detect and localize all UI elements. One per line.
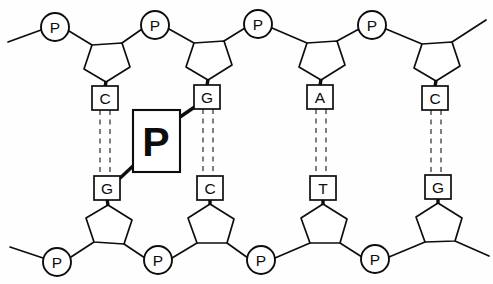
- top-glycosidic-bonds: [105, 79, 436, 88]
- phosphate-node[interactable]: P: [43, 248, 71, 276]
- backbone-bond: [71, 242, 94, 257]
- phosphate-node[interactable]: P: [41, 13, 69, 41]
- phosphate-label: P: [153, 252, 163, 269]
- base-label: C: [204, 180, 215, 197]
- base-label: G: [101, 180, 113, 197]
- nucleobase-node[interactable]: C: [422, 86, 448, 110]
- backbone-bond: [275, 243, 310, 258]
- backbone-bond: [227, 243, 248, 258]
- deoxyribose-sugar: [299, 41, 345, 80]
- dna-diagram-canvas: P P P P P P: [0, 0, 493, 284]
- backbone-bond: [122, 29, 142, 43]
- backbone-bond: [337, 29, 359, 41]
- top-sugar-group: [84, 41, 460, 82]
- hydrogen-bonds-pair-4: [431, 110, 441, 175]
- phosphate-label: P: [253, 16, 263, 33]
- backbone-bond: [69, 31, 92, 45]
- bottom-sugar-group: [86, 203, 462, 244]
- dna-backbone-svg: P P P P P P: [0, 0, 493, 284]
- nucleobase-node[interactable]: G: [425, 175, 451, 199]
- base-label: T: [318, 180, 328, 197]
- deoxyribose-sugar: [301, 204, 347, 243]
- base-label: C: [429, 90, 440, 107]
- base-label: A: [315, 89, 326, 106]
- phosphate-node[interactable]: P: [144, 246, 172, 274]
- backbone-bond: [224, 28, 245, 41]
- deoxyribose-sugar: [416, 203, 462, 242]
- top-base-group: C G A C: [92, 85, 448, 110]
- backbone-bond: [340, 243, 362, 257]
- phosphate-callout[interactable]: P: [133, 110, 180, 172]
- top-terminal-bond-right: [452, 20, 486, 42]
- backbone-bond: [272, 28, 307, 43]
- nucleobase-node[interactable]: C: [92, 86, 118, 110]
- nucleobase-node[interactable]: G: [194, 85, 220, 109]
- phosphate-label: P: [370, 251, 380, 268]
- phosphate-label: P: [150, 17, 160, 34]
- nucleobase-node[interactable]: G: [94, 176, 120, 200]
- nucleobase-node[interactable]: T: [310, 176, 336, 200]
- phosphate-node[interactable]: P: [361, 245, 389, 273]
- nucleobase-node[interactable]: C: [197, 176, 223, 200]
- backbone-bond: [169, 29, 194, 43]
- bottom-terminal-bond-left: [10, 247, 43, 258]
- phosphate-node[interactable]: P: [141, 11, 169, 39]
- phosphate-label: P: [367, 17, 377, 34]
- bottom-base-group: G C T G: [94, 175, 451, 200]
- backbone-bond: [172, 243, 197, 258]
- nucleobase-node[interactable]: A: [307, 85, 333, 109]
- phosphate-label: P: [50, 19, 60, 36]
- bottom-phosphate-group: P P P P: [43, 245, 389, 276]
- backbone-bond: [386, 29, 422, 44]
- phosphate-label: P: [52, 254, 62, 271]
- backbone-bond: [389, 242, 425, 257]
- deoxyribose-sugar: [188, 204, 234, 243]
- phosphate-node[interactable]: P: [244, 10, 272, 38]
- hydrogen-bonds-pair-3: [316, 109, 326, 176]
- phosphate-node[interactable]: P: [247, 246, 275, 274]
- deoxyribose-sugar: [84, 43, 130, 82]
- backbone-bond: [124, 244, 145, 258]
- base-label: G: [201, 89, 213, 106]
- bottom-glycosidic-bonds: [107, 197, 438, 206]
- phosphate-label: P: [256, 252, 266, 269]
- phosphate-node[interactable]: P: [358, 11, 386, 39]
- top-terminal-bond-left: [8, 30, 41, 42]
- hydrogen-bonds-pair-1: [100, 110, 110, 176]
- top-phosphate-group: P P P P: [41, 10, 386, 41]
- deoxyribose-sugar: [86, 205, 132, 244]
- base-label: C: [99, 90, 110, 107]
- callout-label: P: [142, 119, 169, 165]
- deoxyribose-sugar: [414, 42, 460, 81]
- deoxyribose-sugar: [186, 41, 232, 80]
- hydrogen-bonds-pair-2: [203, 109, 213, 176]
- base-label: G: [432, 179, 444, 196]
- bottom-terminal-bond-right: [455, 241, 489, 256]
